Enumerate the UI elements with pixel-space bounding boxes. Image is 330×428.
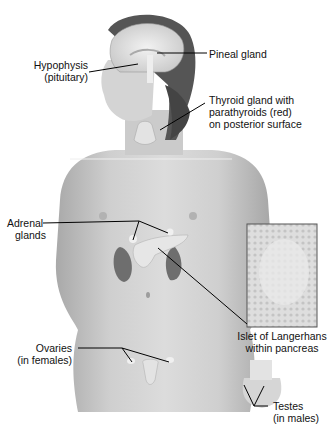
label-adrenal-line2: glands bbox=[7, 229, 46, 241]
label-testes-line2: (in males) bbox=[273, 412, 319, 424]
label-islet: Islet of Langerhans within pancreas bbox=[232, 330, 330, 354]
label-thyroid-line3: on posterior surface bbox=[209, 118, 302, 130]
label-thyroid-line1: Thyroid gland with bbox=[209, 94, 302, 106]
label-islet-line1: Islet of Langerhans bbox=[232, 330, 330, 342]
torso bbox=[56, 150, 273, 412]
label-testes-line1: Testes bbox=[273, 400, 319, 412]
label-pineal-gland: Pineal gland bbox=[209, 48, 267, 60]
head bbox=[101, 15, 195, 155]
label-testes: Testes (in males) bbox=[273, 400, 319, 424]
islet-inset bbox=[247, 224, 317, 327]
label-thyroid: Thyroid gland with parathyroids (red) on… bbox=[209, 94, 302, 130]
label-hypophysis: Hypophysis (pituitary) bbox=[29, 59, 88, 83]
label-hypophysis-line1: Hypophysis bbox=[29, 59, 88, 71]
label-ovaries: Ovaries (in females) bbox=[10, 342, 72, 366]
label-ovaries-line1: Ovaries bbox=[10, 342, 72, 354]
label-adrenal: Adrenal glands bbox=[7, 217, 46, 241]
label-islet-line2: within pancreas bbox=[232, 342, 330, 354]
label-thyroid-line2: parathyroids (red) bbox=[209, 106, 302, 118]
label-hypophysis-line2: (pituitary) bbox=[29, 71, 88, 83]
label-ovaries-line2: (in females) bbox=[10, 354, 72, 366]
label-adrenal-line1: Adrenal bbox=[7, 217, 46, 229]
